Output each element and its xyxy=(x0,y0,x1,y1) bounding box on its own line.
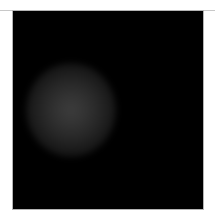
glow-blob xyxy=(26,63,116,157)
render-viewport xyxy=(12,10,204,210)
